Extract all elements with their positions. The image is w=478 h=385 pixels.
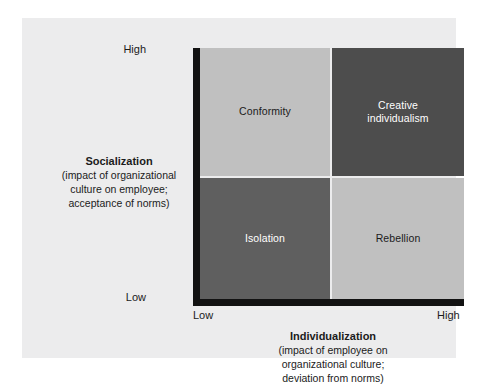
- quadrant-creative-individualism: Creative individualism: [332, 48, 464, 176]
- y-axis-line: [193, 48, 200, 306]
- y-axis-title-line3: acceptance of norms): [46, 197, 192, 211]
- x-axis-title-heading: Individualization: [198, 329, 468, 343]
- x-axis-tick-low: Low: [193, 309, 213, 321]
- quadrant-isolation-label: Isolation: [245, 232, 285, 245]
- figure-panel: Conformity Creative individualism Isolat…: [22, 18, 456, 358]
- y-axis-title-line2: culture on employee;: [46, 183, 192, 197]
- quadrant-isolation: Isolation: [200, 178, 330, 300]
- y-axis-title: Socialization (impact of organizational …: [46, 154, 192, 210]
- x-axis-line: [193, 299, 464, 306]
- x-axis-title: Individualization (impact of employee on…: [198, 329, 468, 385]
- y-axis-tick-low: Low: [126, 291, 146, 303]
- x-axis-title-line3: deviation from norms): [198, 372, 468, 385]
- x-axis-title-line1: (impact of employee on: [198, 344, 468, 358]
- quadrant-rebellion: Rebellion: [332, 178, 464, 300]
- x-axis-title-line2: organizational culture;: [198, 358, 468, 372]
- quadrant-conformity-label: Conformity: [239, 105, 291, 118]
- x-axis-tick-high: High: [437, 309, 460, 321]
- y-axis-title-line1: (impact of organizational: [46, 169, 192, 183]
- quadrant-creative-individualism-label: Creative individualism: [367, 99, 428, 125]
- quadrant-plot-area: Conformity Creative individualism Isolat…: [200, 48, 464, 300]
- y-axis-tick-high: High: [123, 43, 146, 55]
- quadrant-creative-individualism-label-line1: Creative: [378, 99, 418, 111]
- quadrant-conformity: Conformity: [200, 48, 330, 176]
- quadrant-creative-individualism-label-line2: individualism: [367, 112, 428, 124]
- y-axis-title-heading: Socialization: [46, 154, 192, 168]
- quadrant-rebellion-label: Rebellion: [376, 232, 421, 245]
